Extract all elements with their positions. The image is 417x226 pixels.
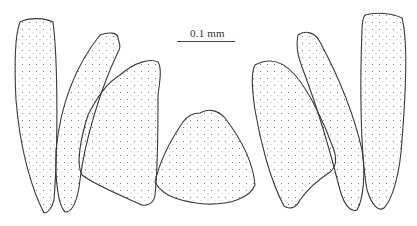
scale-bar-label: 0.1 mm	[190, 27, 225, 39]
right-outer-plate	[361, 13, 406, 209]
center-dome-plate	[155, 110, 255, 204]
stipple-illustration: 0.1 mm	[0, 0, 417, 226]
scale-bar	[177, 41, 235, 42]
left-outer-plate	[15, 19, 57, 213]
